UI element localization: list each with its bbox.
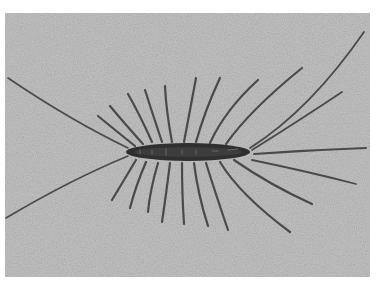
body [126, 143, 250, 161]
centipede-photo [5, 13, 370, 277]
